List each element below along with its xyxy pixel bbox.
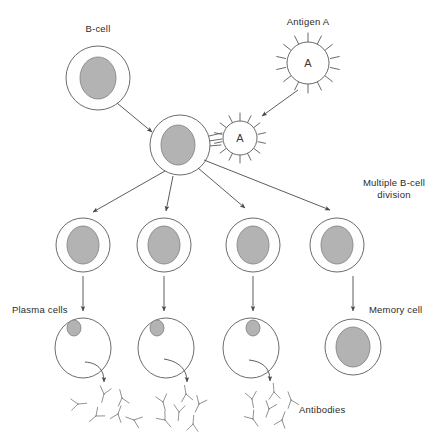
plasma-cell-membrane — [55, 318, 111, 378]
plasma-cells-label: Plasma cells — [12, 304, 68, 315]
antibody-icon — [261, 401, 277, 419]
daughter-cell-nucleus — [237, 226, 269, 264]
b-cell-nucleus — [80, 57, 116, 99]
antigen-receptor-bridge — [209, 133, 222, 146]
daughter-cell-nucleus — [148, 226, 180, 264]
antibody-icon — [268, 383, 280, 399]
antigen-bound-node: A — [215, 113, 266, 163]
multiple-division-label-line2: division — [377, 189, 410, 200]
daughter-cell-1 — [56, 218, 110, 272]
activated-b-cell-node — [150, 115, 210, 175]
daughter-cell-nucleus — [321, 226, 353, 264]
memory-cell-nucleus — [336, 327, 370, 367]
b-cell-label: B-cell — [86, 23, 111, 34]
antibody-cluster-2 — [156, 384, 207, 431]
arrow-bcell-to-activated — [117, 103, 152, 132]
antigen-a-label: Antigen A — [287, 16, 330, 27]
daughter-cell-3 — [226, 218, 280, 272]
antigen-bound-letter: A — [236, 132, 244, 144]
antibody-cluster-1 — [71, 386, 143, 428]
memory-cell-label: Memory cell — [369, 304, 422, 315]
activated-b-cell-nucleus — [161, 125, 195, 165]
arrow-division-1 — [93, 171, 165, 212]
antibody-icon — [173, 405, 185, 421]
antibody-icon — [110, 404, 126, 422]
antibody-icon — [156, 394, 171, 412]
plasma-cell-nucleus — [246, 320, 260, 336]
daughter-cell-2 — [137, 218, 191, 272]
immunology-diagram: B-cell A Antigen A — [0, 0, 439, 442]
antigen-free-letter: A — [304, 57, 312, 69]
memory-cell-node — [325, 319, 381, 375]
antibody-icon — [114, 388, 129, 406]
division-arrows — [93, 160, 330, 212]
antibody-icon — [86, 407, 105, 426]
antibody-icon — [274, 410, 290, 428]
arrow-antigen-to-bound — [262, 90, 298, 116]
arrow-division-4 — [204, 160, 330, 210]
plasma-cell-3 — [223, 318, 279, 381]
plasma-cell-1 — [55, 318, 111, 382]
diagram-canvas: B-cell A Antigen A — [0, 0, 439, 442]
arrow-division-2 — [166, 176, 173, 211]
daughter-cell-4 — [310, 218, 364, 272]
arrow-division-3 — [198, 168, 245, 208]
plasma-cell-membrane — [138, 318, 194, 378]
plasma-cell-nucleus — [150, 320, 164, 336]
antibody-cluster-3 — [245, 383, 299, 429]
differentiation-arrows — [83, 276, 353, 311]
antibody-icon — [179, 384, 193, 401]
antibody-icon — [283, 390, 299, 408]
antibody-icon — [156, 411, 175, 430]
antibody-icon — [187, 415, 199, 431]
antigen-free-node: A — [277, 33, 340, 93]
antibody-icon — [245, 410, 263, 429]
b-cell-node — [66, 46, 130, 110]
daughter-cell-nucleus — [67, 226, 99, 264]
antibody-icon — [96, 386, 111, 404]
antibody-icon — [245, 391, 259, 408]
antibodies-label: Antibodies — [299, 404, 345, 415]
plasma-cell-2 — [138, 318, 194, 382]
antibody-icon — [190, 395, 207, 414]
antibody-icon — [71, 398, 87, 410]
plasma-cell-nucleus — [67, 320, 81, 336]
antibody-icon — [124, 412, 142, 428]
multiple-division-label-line1: Multiple B-cell — [363, 177, 425, 188]
